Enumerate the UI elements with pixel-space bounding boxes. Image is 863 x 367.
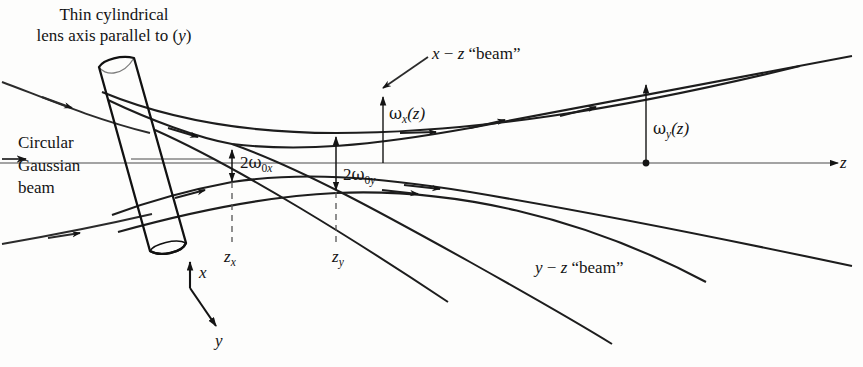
xz-beam-quoted-word: “beam”	[469, 44, 521, 63]
waist-y-subscript-axis: y	[370, 174, 375, 186]
cylindrical-lens	[99, 57, 186, 254]
waist-x-label: 2ω0x	[240, 152, 272, 175]
xz-beam-leader	[383, 57, 428, 88]
yz-beam-var2: z	[561, 258, 568, 277]
omega-x-symbol: ω	[389, 104, 402, 123]
waist-position-droplines	[232, 182, 336, 242]
yz-beam-envelope	[102, 66, 800, 282]
waist-x-position-label: zx	[224, 246, 236, 269]
lens-title-caption: Thin cylindrical lens axis parallel to (…	[14, 4, 214, 47]
input-beam-line1: Circular	[18, 133, 74, 152]
zx-subscript: x	[231, 256, 236, 268]
xz-beam-label: x − z “beam”	[432, 43, 520, 64]
y-axis-label: y	[215, 330, 223, 351]
yz-beam-var1: y	[535, 258, 543, 277]
waist-y-coefficient: 2	[343, 165, 352, 184]
yz-beam-quoted-word: “beam”	[572, 258, 624, 277]
lens-title-axis-var: y	[178, 26, 186, 45]
yz-beam-label: y − z “beam”	[535, 257, 623, 278]
omega-x-label: ωx(z)	[389, 103, 425, 126]
input-beam-line3: beam	[18, 178, 55, 197]
waist-y-label: 2ω0y	[343, 164, 375, 187]
waist-x-omega-symbol: ω	[249, 153, 262, 172]
waist-y-position-label: zy	[332, 246, 344, 269]
z-axis-label: z	[840, 152, 847, 173]
x-axis-label: x	[199, 262, 207, 283]
yz-beam-dash: −	[547, 258, 557, 277]
omega-y-argument: (z)	[671, 119, 689, 138]
lens-title-line2-post: )	[186, 26, 192, 45]
xz-beam-var2: z	[458, 44, 465, 63]
waist-x-coefficient: 2	[240, 153, 249, 172]
lens-title-line2-pre: lens axis parallel to (	[37, 26, 179, 45]
lens-title-line1: Thin cylindrical	[59, 5, 168, 24]
omega-y-label: ωy(z)	[653, 118, 689, 141]
omega-x-argument: (z)	[407, 104, 425, 123]
gaussian-beam-diagram: Thin cylindrical lens axis parallel to (…	[0, 0, 863, 367]
xz-beam-dash: −	[444, 44, 454, 63]
waist-x-subscript-axis: x	[267, 162, 272, 174]
input-beam-line2: Gaussian	[18, 156, 80, 175]
zy-subscript: y	[339, 256, 344, 268]
input-beam-caption: Circular Gaussian beam	[18, 132, 80, 200]
waist-y-omega-symbol: ω	[352, 165, 365, 184]
zy-symbol: z	[332, 247, 339, 266]
omega-y-marker	[643, 85, 650, 166]
omega-y-symbol: ω	[653, 119, 666, 138]
xz-beam-var1: x	[432, 44, 440, 63]
zx-symbol: z	[224, 247, 231, 266]
